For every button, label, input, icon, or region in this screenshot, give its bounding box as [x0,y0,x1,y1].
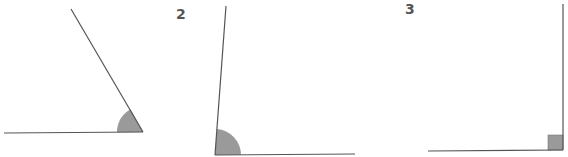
right-angle-square-marker [548,135,563,150]
angle-3-ray-horizontal [428,150,563,151]
figure-3-label: 3 [405,2,415,16]
angle-1-ray-slanted [71,9,143,132]
angle-2-arc-marker [215,129,241,155]
angle-1-arc-marker [117,109,143,132]
figure-2-angle [215,6,355,155]
figure-3-right-angle [428,4,563,151]
figure-2-label: 2 [176,7,186,21]
angle-1-ray-horizontal [4,132,143,133]
angles-diagram [0,0,568,157]
figure-1-acute-angle [4,9,143,133]
